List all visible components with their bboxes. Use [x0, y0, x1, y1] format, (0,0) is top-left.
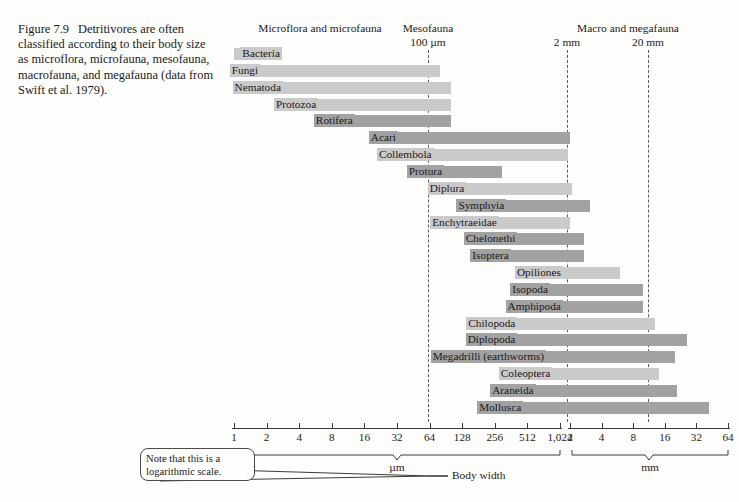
axis-tick — [299, 423, 300, 428]
taxon-bar — [279, 82, 451, 94]
axis-tick — [570, 423, 571, 428]
taxon-bar — [559, 301, 643, 313]
taxon-bar — [495, 217, 570, 229]
axis-tick — [397, 423, 398, 428]
taxon-label: Enchytraeidae — [430, 216, 499, 229]
axis-tick — [462, 423, 463, 428]
taxon-label: Chilopoda — [466, 317, 517, 330]
taxon-label: Isopoda — [510, 283, 550, 296]
taxon-bar — [314, 99, 450, 111]
taxon-bar — [502, 200, 590, 212]
taxon-bar — [440, 166, 502, 178]
axis-tick — [364, 423, 365, 428]
taxon-bar — [430, 149, 568, 161]
taxon-label: Protozoa — [274, 98, 318, 111]
log-scale-note-text: Note that this is a logarithmic scale. — [146, 453, 221, 477]
axis-tick — [665, 423, 666, 428]
axis-tick — [527, 423, 528, 428]
taxon-bar — [532, 385, 678, 397]
taxon-bar — [513, 334, 687, 346]
taxon-bar — [559, 267, 620, 279]
axis-tick — [602, 423, 603, 428]
taxon-bar — [542, 351, 675, 363]
axis-line — [568, 428, 730, 429]
axis-tick — [633, 423, 634, 428]
taxon-bar — [256, 65, 440, 77]
taxon-label: Symphyia — [456, 199, 506, 212]
body-width-label: Body width — [452, 469, 505, 481]
taxon-label: Bacteria — [240, 47, 282, 60]
taxon-label: Chelonethi — [464, 232, 518, 245]
taxon-label: Araneida — [490, 384, 535, 397]
taxon-label: Collembola — [377, 148, 434, 161]
taxon-label: Isoptera — [470, 249, 510, 262]
axis-tick — [728, 423, 729, 428]
taxon-label: Coleoptera — [499, 367, 553, 380]
taxon-bar — [548, 368, 658, 380]
taxon-label: Opiliones — [515, 266, 563, 279]
taxon-bar — [513, 318, 655, 330]
taxon-bar — [546, 284, 643, 296]
axis-tick-label-mm: 64 — [708, 431, 739, 443]
taxon-label: Diplopoda — [466, 333, 518, 346]
taxon-label: Mollusca — [477, 401, 523, 414]
taxon-bar — [351, 115, 451, 127]
axis-line — [232, 428, 562, 429]
axis-tick — [495, 423, 496, 428]
taxon-bar — [507, 250, 584, 262]
axis-tick — [560, 423, 561, 428]
axis-tick — [430, 423, 431, 428]
taxon-bar — [513, 233, 583, 245]
bar-chart-rows: BacteriaFungiNematodaProtozoaRotiferaAca… — [0, 0, 739, 502]
unit-label-um: µm — [367, 461, 427, 473]
taxon-label: Diplura — [428, 182, 467, 195]
taxon-bar — [394, 132, 570, 144]
axis-tick — [332, 423, 333, 428]
taxon-label: Acari — [369, 131, 398, 144]
axis-tick — [267, 423, 268, 428]
taxon-label: Nematoda — [233, 81, 283, 94]
figure-canvas: Figure 7.9Detritivores are often classif… — [0, 0, 739, 502]
log-scale-note: Note that this is a logarithmic scale. — [140, 448, 255, 481]
taxon-label: Megadrilli (earthworms) — [431, 350, 546, 363]
axis-tick — [234, 423, 235, 428]
taxon-bar — [519, 402, 709, 414]
taxon-label: Rotifera — [314, 114, 355, 127]
taxon-bar — [462, 183, 572, 195]
taxon-label: Fungi — [230, 64, 260, 77]
unit-label-mm: mm — [620, 461, 680, 473]
taxon-label: Amphipoda — [506, 300, 563, 313]
axis-tick — [696, 423, 697, 428]
taxon-label: Protura — [407, 165, 444, 178]
